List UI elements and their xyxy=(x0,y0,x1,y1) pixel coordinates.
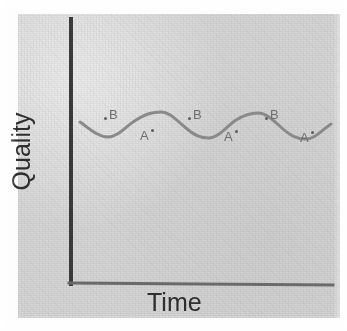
peak-marker-dot xyxy=(104,117,107,120)
x-axis-label: Time xyxy=(147,288,202,317)
plot-area xyxy=(0,0,347,331)
peak-marker-dot xyxy=(265,117,268,120)
trough-label-a-3: A xyxy=(300,130,309,145)
peak-label-b-2: B xyxy=(193,107,202,122)
trough-marker-dot xyxy=(151,129,154,132)
trough-label-a-2: A xyxy=(224,129,233,144)
trough-label-a-1: A xyxy=(140,128,149,143)
peak-label-b-1: B xyxy=(109,107,118,122)
chart-screenshot: Quality Time B B B A A A xyxy=(0,0,347,331)
y-axis-label: Quality xyxy=(7,113,36,191)
trough-marker-dot xyxy=(311,131,314,134)
x-axis-line xyxy=(69,283,333,285)
trough-marker-dot xyxy=(235,130,238,133)
peak-label-b-3: B xyxy=(270,107,279,122)
peak-marker-dot xyxy=(188,117,191,120)
